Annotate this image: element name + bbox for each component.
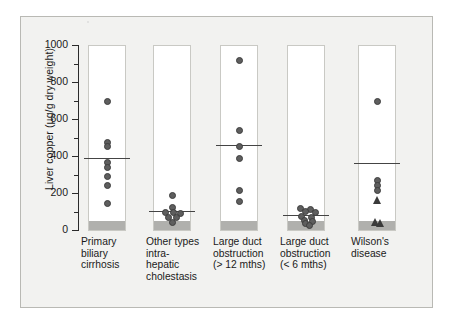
data-point-circle: [104, 173, 111, 180]
mean-line: [283, 215, 329, 216]
y-axis-tick-label: 800: [36, 75, 68, 87]
panel-column: [287, 45, 325, 231]
category-label: Other typesintra-hepaticcholestasis: [146, 236, 218, 282]
data-point-circle: [236, 127, 243, 134]
plot-canvas: Liver copper (µg/g dry weight) 020040060…: [21, 17, 434, 309]
y-axis-tick-label: 600: [36, 112, 68, 124]
figure-frame: Liver copper (µg/g dry weight) 020040060…: [20, 16, 433, 308]
data-point-circle: [104, 200, 111, 207]
data-point-circle: [374, 187, 381, 194]
category-label-line: obstruction: [213, 248, 285, 260]
data-point-circle: [104, 143, 111, 150]
category-label-line: obstruction: [280, 248, 352, 260]
category-label-line: Other types: [146, 236, 218, 248]
data-point-circle: [236, 198, 243, 205]
y-axis-major-tick: [72, 230, 78, 231]
category-label-line: cholestasis: [146, 271, 218, 283]
normal-range-band: [221, 221, 257, 230]
category-label: Large ductobstruction(> 12 mths): [213, 236, 285, 271]
data-point-circle: [236, 143, 243, 150]
data-point-circle: [236, 57, 243, 64]
category-label: Large ductobstruction(< 6 mths): [280, 236, 352, 271]
y-axis-minor-tick: [74, 138, 78, 139]
data-point-circle: [236, 187, 243, 194]
y-axis-minor-tick: [74, 101, 78, 102]
category-label: Primarybiliarycirrhosis: [81, 236, 153, 271]
category-label-line: Large duct: [213, 236, 285, 248]
category-label-line: disease: [351, 248, 423, 260]
y-axis-minor-tick: [74, 212, 78, 213]
y-axis-major-tick: [72, 193, 78, 194]
data-point-circle: [236, 155, 243, 162]
data-point-circle: [306, 222, 313, 229]
category-label-line: hepatic: [146, 259, 218, 271]
data-point-triangle: [376, 219, 384, 227]
category-label-line: Large duct: [280, 236, 352, 248]
category-label-line: (< 6 mths): [280, 259, 352, 271]
y-axis-major-tick: [72, 119, 78, 120]
y-axis-tick-label: 200: [36, 186, 68, 198]
y-axis-major-tick: [72, 82, 78, 83]
normal-range-band: [89, 221, 125, 230]
data-point-circle: [104, 164, 111, 171]
category-label: Wilson'sdisease: [351, 236, 423, 259]
y-axis-tick-label: 400: [36, 149, 68, 161]
category-label-line: intra-: [146, 248, 218, 260]
category-label-line: cirrhosis: [81, 259, 153, 271]
y-axis-tick-label: 1000: [36, 38, 68, 50]
y-axis-major-tick: [72, 156, 78, 157]
category-label-line: biliary: [81, 248, 153, 260]
y-axis-minor-tick: [74, 64, 78, 65]
category-label-line: Primary: [81, 236, 153, 248]
mean-line: [354, 163, 400, 164]
y-axis-tick-label: 0: [36, 223, 68, 235]
y-axis-line: [78, 45, 79, 231]
data-point-circle: [169, 192, 176, 199]
data-point-triangle: [373, 196, 381, 204]
category-label-line: (> 12 mths): [213, 259, 285, 271]
y-axis-major-tick: [72, 45, 78, 46]
category-label-line: Wilson's: [351, 236, 423, 248]
y-axis-minor-tick: [74, 175, 78, 176]
data-point-circle: [104, 182, 111, 189]
data-point-circle: [169, 219, 176, 226]
